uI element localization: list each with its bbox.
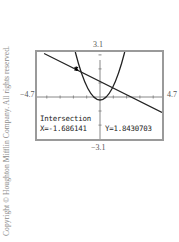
intersection-y-value: Y=1.8430703 (105, 125, 152, 133)
ymin-label: −3.1 (91, 143, 106, 152)
intersection-title: Intersection (40, 115, 91, 123)
linear-function-line (44, 54, 162, 113)
xmin-label: −4.7 (20, 90, 35, 99)
intersection-x-value: X=-1.686141 (40, 125, 87, 133)
xmax-label: 4.7 (167, 90, 177, 99)
ymax-label: 3.1 (93, 40, 103, 49)
calculator-screen: Intersection X=-1.686141 Y=1.8430703 (35, 50, 164, 141)
copyright-notice: Copyright © Houghton Mifflin Company. Al… (2, 46, 11, 236)
